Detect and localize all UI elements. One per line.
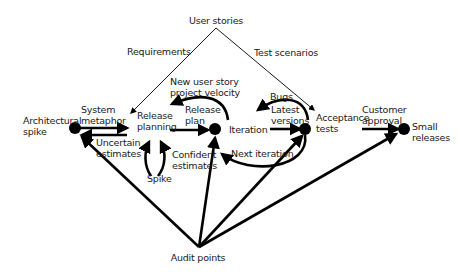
new-user-story-label: New user story project velocity <box>170 76 240 98</box>
audit-points-label: Audit points <box>171 252 226 263</box>
next-iteration-label: Next iteration <box>231 148 294 159</box>
confident-estimates-label: Confident estimates <box>172 149 217 171</box>
requirements-edge <box>131 28 216 113</box>
architectural-spike-label: Architectural spike <box>23 115 81 137</box>
spike-label: Spike <box>147 173 172 184</box>
iteration-label: Iteration <box>229 124 268 135</box>
audit-to-small-releases <box>199 134 396 247</box>
system-metaphor-label: System metaphor <box>81 104 126 126</box>
bugs-label: Bugs <box>270 91 293 102</box>
customer-approval-label: Customer approval <box>362 104 407 126</box>
small-releases-label: Small releases <box>412 121 450 143</box>
release-plan-label: Release plan <box>185 104 221 126</box>
test-scenarios-label: Test scenarios <box>254 47 318 58</box>
user-stories-label: User stories <box>189 15 243 26</box>
xp-lifecycle-diagram <box>0 0 462 275</box>
latest-versions-label: Latest versions <box>271 104 309 126</box>
spike-left-edge <box>145 142 151 176</box>
requirements-label: Requirements <box>127 46 191 57</box>
spike-right-edge <box>158 142 164 176</box>
release-planning-label: Release planning <box>137 110 177 132</box>
uncertain-estimates-label: Uncertain estimates <box>96 137 141 159</box>
